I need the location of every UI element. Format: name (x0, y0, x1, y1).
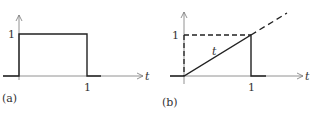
x-tick-1: 1 (84, 81, 91, 94)
y-tick-1: 1 (8, 28, 15, 41)
panel-b: 1 1 t t (b) (162, 12, 310, 109)
x-axis-label: t (145, 70, 150, 83)
x-tick-1: 1 (248, 81, 255, 94)
panel-caption: (a) (2, 92, 17, 105)
x-axis-label: t (305, 70, 310, 83)
pulse-curve (3, 34, 101, 76)
panel-a: 1 1 t (a) (2, 15, 150, 105)
y-tick-1: 1 (172, 29, 179, 42)
ramp-dashed-extension (251, 13, 287, 35)
panel-caption: (b) (162, 96, 178, 109)
diagram-canvas: 1 1 t (a) 1 1 t t (b) (0, 0, 317, 120)
ramp-label: t (212, 45, 217, 58)
